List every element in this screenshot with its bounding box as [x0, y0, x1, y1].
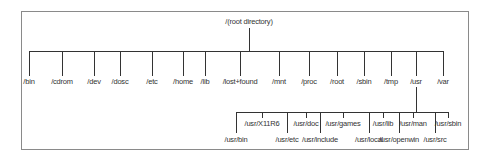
- directory-node-usr-lib: /usr/lib: [373, 119, 394, 128]
- directory-node-usr-x11r6: /usr/X11R6: [245, 119, 280, 128]
- directory-node-usr: /usr: [410, 77, 422, 86]
- directory-node-proc: /proc: [301, 77, 317, 86]
- directory-node-usr-sbin: /usr/sbin: [435, 119, 462, 128]
- root-directory-node: /(root directory): [225, 17, 272, 26]
- directory-node-mnt: /mnt: [272, 77, 286, 86]
- directory-node-lost-found: /lost+found: [223, 77, 258, 86]
- directory-node-tmp: /tmp: [384, 77, 398, 86]
- directory-node-usr-games: /usr/games: [325, 119, 360, 128]
- directory-node-usr-include: /usr/include: [302, 135, 338, 144]
- directory-node-usr-etc: /usr/etc: [276, 135, 299, 144]
- directory-node-var: /var: [437, 77, 449, 86]
- directory-node-cdrom: /cdrom: [51, 77, 73, 86]
- directory-node-usr-openwin: /usr/openwin: [379, 135, 419, 144]
- directory-node-usr-doc: /usr/doc: [293, 119, 318, 128]
- directory-node-sbin: /sbin: [357, 77, 372, 86]
- directory-node-usr-src: /usr/src: [424, 135, 447, 144]
- directory-node-usr-bin: /usr/bin: [225, 135, 248, 144]
- directory-node-dev: /dev: [87, 77, 100, 86]
- directory-node-usr-man: /usr/man: [399, 119, 427, 128]
- directory-node-bin: /bin: [23, 77, 34, 86]
- directory-node-dosc: /dosc: [112, 77, 129, 86]
- directory-node-etc: /etc: [146, 77, 157, 86]
- directory-node-root: /root: [330, 77, 344, 86]
- directory-node-home: /home: [173, 77, 193, 86]
- directory-node-lib: /lib: [201, 77, 210, 86]
